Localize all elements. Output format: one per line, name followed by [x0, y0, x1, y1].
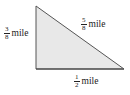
denominator: 8 — [5, 34, 9, 41]
unit: mile — [12, 29, 29, 39]
denominator: 8 — [82, 25, 86, 32]
unit: mile — [89, 20, 106, 30]
left-side-label: 3 8 mile — [4, 26, 28, 41]
denominator: 2 — [75, 82, 79, 89]
left-side-fraction: 3 8 — [4, 26, 10, 41]
unit: mile — [82, 77, 99, 87]
hypotenuse-label: 5 8 mile — [81, 17, 105, 32]
triangle-figure — [0, 0, 130, 95]
hypotenuse-fraction: 5 8 — [81, 17, 87, 32]
bottom-side-label: 1 2 mile — [74, 74, 98, 89]
bottom-side-fraction: 1 2 — [74, 74, 80, 89]
